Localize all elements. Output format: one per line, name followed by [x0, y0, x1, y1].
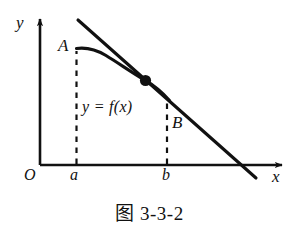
function-curve-label: y = f(x)	[82, 99, 133, 115]
figure-container: y x O a b A B y = f(x) 图 3-3-2	[0, 0, 299, 236]
y-axis-label: y	[16, 14, 24, 31]
point-label-b: B	[172, 114, 182, 131]
x-axis-label: x	[272, 168, 280, 185]
x-tick-label-b: b	[162, 167, 170, 183]
tangent-point-dot	[140, 75, 151, 86]
function-curve	[77, 48, 170, 100]
origin-label: O	[24, 167, 36, 183]
x-tick-label-a: a	[70, 167, 78, 183]
point-label-a: A	[58, 37, 68, 54]
figure-caption: 图 3-3-2	[0, 198, 299, 225]
